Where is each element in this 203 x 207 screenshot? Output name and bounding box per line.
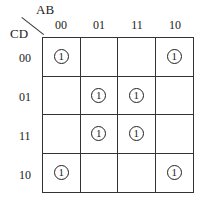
column-header-01: 01 [84, 18, 114, 33]
kmap-cell: 1 [118, 115, 156, 154]
column-header-00: 00 [46, 18, 76, 33]
kmap-cell: 1 [118, 77, 156, 116]
kmap-cell [81, 154, 119, 193]
minterm-circle: 1 [129, 126, 144, 141]
column-header-11: 11 [122, 18, 152, 33]
kmap-cell [43, 115, 81, 154]
row-header-10: 10 [19, 168, 39, 183]
kmap-cell [118, 38, 156, 77]
row-header-01: 01 [19, 90, 39, 105]
minterm-circle: 1 [129, 88, 144, 103]
minterm-circle: 1 [167, 49, 182, 64]
minterm-circle: 1 [54, 165, 69, 180]
kmap-cell: 1 [43, 38, 81, 77]
column-variable-label: AB [36, 3, 54, 16]
row-header-11: 11 [19, 129, 39, 144]
kmap-cell: 1 [81, 77, 119, 116]
kmap-cell: 1 [156, 38, 194, 77]
minterm-circle: 1 [91, 126, 106, 141]
minterm-circle: 1 [91, 88, 106, 103]
row-header-00: 00 [19, 51, 39, 66]
kmap-cell: 1 [156, 154, 194, 193]
kmap-cell [81, 38, 119, 77]
row-variable-label: CD [10, 27, 28, 40]
kmap-cell [43, 77, 81, 116]
column-header-10: 10 [160, 18, 190, 33]
minterm-circle: 1 [167, 165, 182, 180]
kmap-cell: 1 [81, 115, 119, 154]
kmap-cell: 1 [43, 154, 81, 193]
kmap-cell [156, 77, 194, 116]
kmap-cell [156, 115, 194, 154]
kmap-grid: 1 1 1 1 1 1 1 1 [42, 37, 194, 193]
kmap-cell [118, 154, 156, 193]
minterm-circle: 1 [54, 49, 69, 64]
